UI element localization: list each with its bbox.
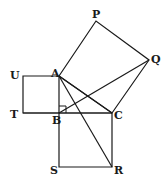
label-C: C xyxy=(114,110,123,121)
label-S: S xyxy=(50,165,58,176)
pythagorean-diagram: U A T B C P Q S R xyxy=(0,0,163,185)
label-P: P xyxy=(92,9,100,20)
geometry-svg xyxy=(0,0,163,185)
label-B: B xyxy=(52,115,61,126)
segment-AC xyxy=(59,76,112,113)
square-ABTU xyxy=(23,76,59,113)
label-R: R xyxy=(114,165,123,176)
segment-BQ xyxy=(59,60,149,113)
label-A: A xyxy=(51,68,60,79)
label-Q: Q xyxy=(151,54,161,65)
label-T: T xyxy=(10,109,18,120)
segment-AR xyxy=(59,76,112,167)
label-U: U xyxy=(10,70,20,81)
